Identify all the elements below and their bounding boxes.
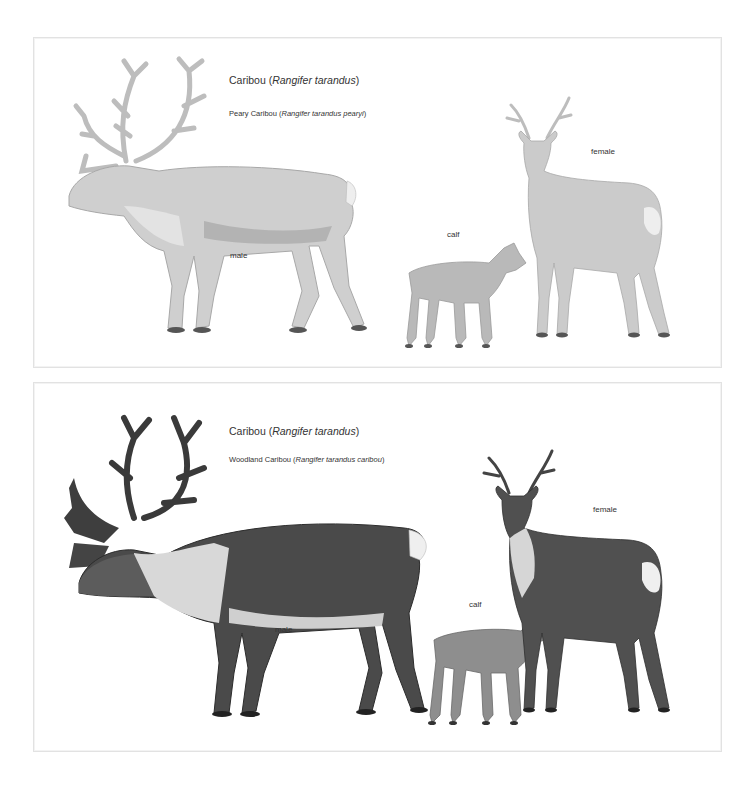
male-label: male [275, 625, 292, 634]
female-label: female [591, 147, 615, 156]
calf-label: calf [447, 230, 459, 239]
woodland-caribou-plate: Caribou (Rangifer tarandus) Woodland Car… [33, 382, 722, 752]
woodland-male-caribou-illustration [64, 408, 424, 738]
peary-male-caribou-illustration [64, 56, 374, 346]
woodland-female-caribou-illustration [464, 448, 694, 723]
male-label: male [230, 251, 247, 260]
peary-caribou-plate: Caribou (Rangifer tarandus) Peary Caribo… [33, 37, 722, 368]
peary-female-caribou-illustration [489, 93, 689, 343]
female-label: female [593, 505, 617, 514]
